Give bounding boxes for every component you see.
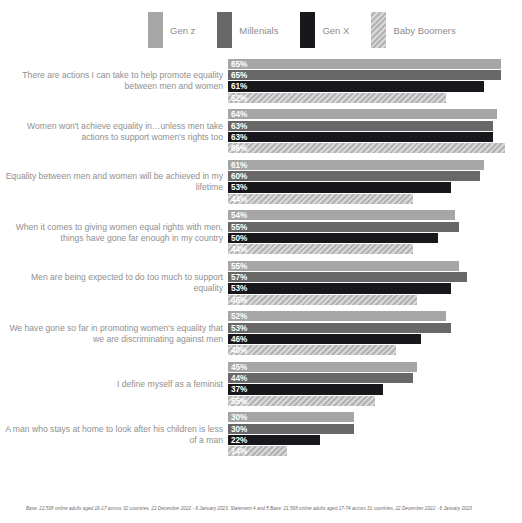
legend-swatch-baby-boomers: [371, 12, 386, 48]
bar-value-label: 64%: [231, 110, 247, 119]
bar-value-label: 60%: [231, 172, 247, 181]
bar-row: 61%: [228, 81, 484, 91]
legend-label-gen-z: Gen z: [170, 25, 195, 36]
bar-row: 22%: [228, 435, 320, 445]
bar-row: 37%: [228, 384, 383, 394]
category-label: There are actions I can take to help pro…: [0, 70, 228, 92]
bar-group: 52%53%46%40%: [228, 310, 522, 357]
bar-value-label: 65%: [231, 71, 247, 80]
bar-millenials: 55%: [228, 222, 459, 232]
bar-baby-boomers: 14%: [228, 446, 287, 456]
bar-baby-boomers: 52%: [228, 93, 446, 103]
bar-gen-z: 55%: [228, 261, 459, 271]
bar-row: 30%: [228, 424, 354, 434]
chart-group: I define myself as a feminist45%44%37%55…: [0, 359, 522, 410]
bar-value-label: 65%: [231, 59, 247, 68]
bar-value-label: 44%: [231, 245, 247, 254]
category-label: We have gone so far in promoting women's…: [0, 323, 228, 345]
bar-row: 53%: [228, 323, 451, 333]
bar-millenials: 60%: [228, 171, 480, 181]
bar-value-label: 63%: [231, 132, 247, 141]
bar-value-label: 55%: [231, 396, 247, 405]
bar-value-label: 45%: [231, 295, 247, 304]
legend-label-gen-x: Gen X: [322, 25, 349, 36]
bar-row: 66%: [228, 143, 505, 153]
bar-row: 61%: [228, 160, 484, 170]
bar-value-label: 63%: [231, 121, 247, 130]
bar-row: 45%: [228, 295, 417, 305]
bar-baby-boomers: 40%: [228, 345, 396, 355]
bar-value-label: 61%: [231, 82, 247, 91]
chart-legend: Gen z Millenials Gen X Baby Boomers: [0, 8, 522, 52]
legend-item-gen-x: Gen X: [300, 12, 349, 48]
bar-value-label: 52%: [231, 93, 247, 102]
bar-gen-x: 22%: [228, 435, 320, 445]
bar-row: 55%: [228, 396, 375, 406]
bar-row: 57%: [228, 272, 467, 282]
bar-group: 61%60%53%44%: [228, 159, 522, 206]
chart-plot-area: There are actions I can take to help pro…: [0, 56, 522, 502]
bar-group: 54%55%50%44%: [228, 209, 522, 256]
bar-row: 63%: [228, 132, 493, 142]
bar-baby-boomers: 66%: [228, 143, 505, 153]
category-label: A man who stays at home to look after hi…: [0, 424, 228, 446]
bar-gen-z: 54%: [228, 210, 455, 220]
bar-millenials: 63%: [228, 121, 493, 131]
category-label: Men are being expected to do too much to…: [0, 272, 228, 294]
chart-footnote: Base: 22,508 online adults aged 16-17 ac…: [26, 505, 506, 512]
bar-gen-x: 46%: [228, 334, 421, 344]
bar-gen-z: 52%: [228, 311, 446, 321]
chart-group: When it comes to giving women equal righ…: [0, 208, 522, 259]
bar-millenials: 30%: [228, 424, 354, 434]
bar-row: 65%: [228, 59, 501, 69]
legend-label-baby-boomers: Baby Boomers: [393, 25, 455, 36]
bar-row: 46%: [228, 334, 421, 344]
bar-gen-x: 61%: [228, 81, 484, 91]
bar-baby-boomers: 45%: [228, 295, 417, 305]
bar-group: 64%63%63%66%: [228, 108, 522, 155]
bar-baby-boomers: 55%: [228, 396, 375, 406]
legend-swatch-gen-x: [300, 12, 315, 48]
bar-row: 45%: [228, 362, 417, 372]
chart-group: Equality between men and women will be a…: [0, 157, 522, 208]
legend-item-gen-z: Gen z: [148, 12, 195, 48]
bar-row: 53%: [228, 182, 451, 192]
bar-row: 53%: [228, 283, 451, 293]
bar-value-label: 55%: [231, 222, 247, 231]
bar-group: 55%57%53%45%: [228, 260, 522, 307]
bar-value-label: 22%: [231, 435, 247, 444]
bar-row: 54%: [228, 210, 455, 220]
bar-value-label: 45%: [231, 362, 247, 371]
bar-group: 45%44%37%55%: [228, 361, 522, 408]
bar-value-label: 54%: [231, 211, 247, 220]
bar-value-label: 14%: [231, 447, 247, 456]
bar-row: 44%: [228, 194, 413, 204]
bar-value-label: 30%: [231, 413, 247, 422]
bar-row: 55%: [228, 261, 459, 271]
bar-value-label: 40%: [231, 346, 247, 355]
bar-value-label: 57%: [231, 273, 247, 282]
bar-value-label: 37%: [231, 385, 247, 394]
legend-item-millenials: Millenials: [217, 12, 278, 48]
category-label: Equality between men and women will be a…: [0, 171, 228, 193]
bar-group: 65%65%61%52%: [228, 58, 522, 105]
bar-baby-boomers: 44%: [228, 194, 413, 204]
bar-group: 30%30%22%14%: [228, 411, 522, 458]
category-label: When it comes to giving women equal righ…: [0, 222, 228, 244]
bar-value-label: 53%: [231, 183, 247, 192]
bar-value-label: 44%: [231, 194, 247, 203]
bar-row: 50%: [228, 233, 438, 243]
bar-gen-x: 53%: [228, 182, 451, 192]
legend-swatch-millenials: [217, 12, 232, 48]
bar-row: 55%: [228, 222, 459, 232]
bar-value-label: 55%: [231, 261, 247, 270]
bar-baby-boomers: 44%: [228, 244, 413, 254]
bar-gen-x: 63%: [228, 132, 493, 142]
chart-group: Women won't achieve equality in…unless m…: [0, 107, 522, 158]
bar-row: 44%: [228, 373, 413, 383]
chart-group: We have gone so far in promoting women's…: [0, 309, 522, 360]
legend-label-millenials: Millenials: [239, 25, 278, 36]
bar-row: 63%: [228, 121, 493, 131]
bar-gen-x: 37%: [228, 384, 383, 394]
bar-gen-x: 53%: [228, 283, 451, 293]
